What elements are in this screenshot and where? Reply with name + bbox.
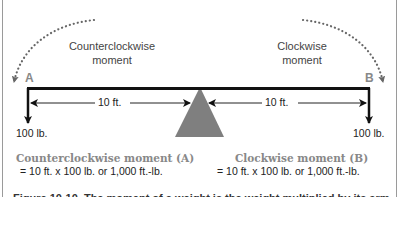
counterclockwise-label-line1: Counterclockwise [69, 40, 155, 52]
counterclockwise-moment-calc: = 10 ft. x 100 lb. or 1,000 ft.-lb. [20, 165, 163, 177]
figure-caption: Figure 10-10. The moment of a weight is … [13, 191, 393, 197]
point-a-label: A [25, 71, 34, 85]
right-distance-label: 10 ft. [262, 96, 291, 108]
counterclockwise-label: Counterclockwise moment [62, 39, 162, 67]
clockwise-label-line1: Clockwise [277, 40, 327, 52]
left-weight-label: 100 lb. [16, 127, 48, 139]
clockwise-moment-title: Clockwise moment (B) [235, 152, 368, 164]
figure-caption-text: Figure 10-10. The moment of a weight is … [13, 191, 393, 197]
clockwise-moment-calc: = 10 ft. x 100 lb. or 1,000 ft.-lb. [217, 165, 360, 177]
counterclockwise-label-line2: moment [92, 54, 132, 66]
clockwise-label: Clockwise moment [262, 39, 342, 67]
clockwise-label-line2: moment [282, 54, 322, 66]
counterclockwise-moment-title: Counterclockwise moment (A) [16, 152, 194, 164]
point-b-label: B [365, 71, 374, 85]
fulcrum-triangle [175, 87, 224, 137]
left-distance-label: 10 ft. [95, 96, 124, 108]
right-weight-label: 100 lb. [353, 127, 385, 139]
